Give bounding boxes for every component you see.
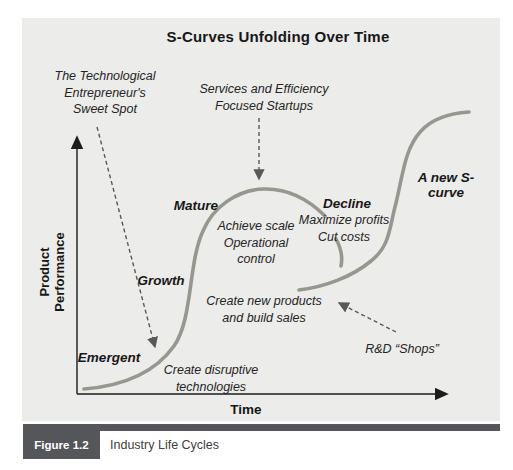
annotation-maximize-profits: Maximize profits Cut costs [299,212,389,245]
annotation-services-startups: Services and Efficiency Focused Startups [199,81,328,114]
annotation-rd-shops: R&D “Shops” [365,341,439,358]
stage-label-mature: Mature [174,198,218,213]
annotation-create-disruptive: Create disruptive technologies [164,362,259,395]
diagram-title: S-Curves Unfolding Over Time [167,28,390,45]
stage-label-decline: Decline [323,196,371,211]
x-axis-label: Time [230,402,261,417]
stage-label-emergent: Emergent [78,350,140,365]
sweet-spot-dashed-arrow [97,127,155,347]
annotation-achieve-scale: Achieve scale Operational control [217,218,294,268]
stage-label-growth: Growth [137,273,184,288]
y-axis-label: Product Performance [37,207,67,337]
stage-label-new-s-curve: A new S-curve [413,170,480,200]
caption-rule-bar [23,424,500,431]
figure-caption-title: Industry Life Cycles [110,431,219,459]
annotation-create-new-products: Create new products and build sales [206,293,321,326]
figure-number-badge: Figure 1.2 [23,431,100,459]
rd-shops-dashed-arrow [339,303,396,332]
figure-number-label: Figure 1.2 [34,439,88,451]
annotation-sweet-spot: The Technological Entrepreneur's Sweet S… [55,68,156,118]
figure-1-2-industry-life-cycles: S-Curves Unfolding Over Time Product Per… [0,0,513,470]
